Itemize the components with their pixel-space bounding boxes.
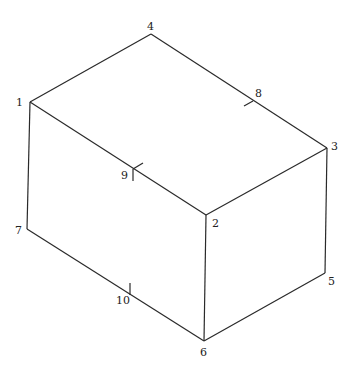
edge-1-2 [30,102,206,215]
tick-mark-node-8 [244,101,253,106]
node-label-5: 5 [328,275,335,288]
edge-6-5 [204,273,325,341]
edge-3-5 [325,148,327,273]
tick-mark-node-9 [133,163,143,169]
edge-1-4 [30,34,151,102]
edge-4-3 [151,34,327,148]
edge-7-6 [27,229,204,341]
node-label-4: 4 [147,20,154,33]
box-element-diagram: 12345678910 [0,0,355,373]
node-label-10: 10 [116,294,130,307]
node-label-3: 3 [331,140,338,153]
node-label-7: 7 [15,224,22,237]
edge-1-7 [27,102,30,229]
edge-2-6 [204,215,206,341]
node-label-2: 2 [212,217,219,230]
node-label-8: 8 [255,87,262,100]
node-label-1: 1 [16,96,23,109]
mid-node-ticks-group [130,101,253,295]
edge-2-3 [206,148,327,215]
node-label-6: 6 [200,346,207,359]
node-labels-group: 12345678910 [15,20,338,359]
edges-group [27,34,327,341]
node-label-9: 9 [121,169,128,182]
